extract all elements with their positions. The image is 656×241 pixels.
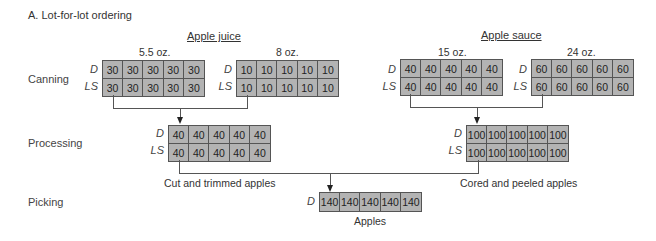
cell-d: 30 — [184, 61, 204, 78]
cell-ls: 40 — [209, 144, 229, 161]
cell-d: 10 — [277, 61, 297, 78]
cell-d: 40 — [230, 126, 250, 143]
cell-d: 140 — [360, 193, 380, 211]
cell-d: 100 — [507, 126, 527, 143]
row-label-ls: LS — [440, 144, 462, 156]
size-label-5-5oz: 5.5 oz. — [139, 46, 171, 58]
cell-d: 40 — [441, 60, 461, 77]
cell-ls: 100 — [487, 144, 507, 161]
cell-d: 30 — [123, 61, 143, 78]
cell-ls: 10 — [257, 79, 277, 96]
cell-d: 10 — [318, 61, 338, 78]
cell-d: 40 — [401, 60, 421, 77]
cell-ls: 40 — [441, 78, 461, 95]
row-label-ls: LS — [210, 80, 232, 92]
size-label-24oz: 24 oz. — [567, 46, 596, 58]
cell-ls: 100 — [548, 144, 568, 161]
diagram-title: A. Lot-for-lot ordering — [28, 9, 132, 21]
cell-ls: 40 — [189, 144, 209, 161]
group-label-apple-juice: Apple juice — [187, 30, 241, 42]
cell-d: 60 — [532, 60, 552, 77]
cell-ls: 60 — [572, 78, 592, 95]
mrp-grid-apples: 140 140 140 140 140 — [319, 192, 422, 212]
cell-d: 40 — [169, 126, 189, 143]
cell-ls: 100 — [467, 144, 487, 161]
cell-d: 60 — [572, 60, 592, 77]
cell-d: 40 — [462, 60, 482, 77]
row-label-d: D — [210, 63, 232, 75]
cell-d: 10 — [257, 61, 277, 78]
connector-line — [113, 95, 114, 108]
cell-d: 40 — [421, 60, 441, 77]
cell-ls: 40 — [462, 78, 482, 95]
cell-d: 60 — [552, 60, 572, 77]
caption-apples: Apples — [354, 215, 386, 227]
stage-label-picking: Picking — [28, 196, 63, 208]
group-label-apple-sauce: Apple sauce — [481, 29, 542, 41]
cell-d: 100 — [548, 126, 568, 143]
size-label-8oz: 8 oz. — [276, 46, 299, 58]
mrp-grid-cut-trimmed: 40 40 40 40 40 40 40 40 40 40 — [168, 125, 271, 162]
caption-cut-trimmed: Cut and trimmed apples — [164, 177, 275, 189]
cell-d: 60 — [593, 60, 613, 77]
cell-ls: 60 — [532, 78, 552, 95]
connector-line — [542, 94, 543, 107]
cell-d: 10 — [237, 61, 257, 78]
cell-d: 60 — [613, 60, 633, 77]
cell-ls: 40 — [230, 144, 250, 161]
cell-ls: 30 — [103, 79, 123, 96]
cell-ls: 30 — [123, 79, 143, 96]
arrow-down-icon — [177, 117, 183, 124]
cell-d: 40 — [250, 126, 270, 143]
cell-ls: 60 — [593, 78, 613, 95]
connector-line — [179, 173, 479, 174]
row-label-ls: LS — [76, 80, 98, 92]
cell-d: 100 — [528, 126, 548, 143]
mrp-grid-sauce-15oz: 40 40 40 40 40 40 40 40 40 40 — [400, 59, 503, 96]
row-label-d: D — [374, 63, 396, 75]
cell-d: 40 — [482, 60, 502, 77]
caption-cored-peeled: Cored and peeled apples — [460, 177, 577, 189]
row-label-ls: LS — [374, 80, 396, 92]
row-label-d: D — [142, 127, 164, 139]
cell-ls: 10 — [277, 79, 297, 96]
row-label-ls: LS — [142, 144, 164, 156]
cell-ls: 30 — [143, 79, 163, 96]
cell-ls: 10 — [318, 79, 338, 96]
cell-d: 140 — [401, 193, 421, 211]
mrp-grid-sauce-24oz: 60 60 60 60 60 60 60 60 60 60 — [531, 59, 634, 96]
cell-ls: 40 — [421, 78, 441, 95]
row-label-d: D — [76, 63, 98, 75]
cell-ls: 100 — [507, 144, 527, 161]
connector-line — [247, 95, 248, 108]
cell-d: 30 — [103, 61, 123, 78]
cell-d: 140 — [340, 193, 360, 211]
cell-ls: 40 — [482, 78, 502, 95]
cell-d: 10 — [298, 61, 318, 78]
cell-ls: 30 — [164, 79, 184, 96]
connector-line — [410, 94, 411, 107]
cell-d: 40 — [209, 126, 229, 143]
mrp-grid-juice-5-5oz: 30 30 30 30 30 30 30 30 30 30 — [102, 60, 205, 97]
stage-label-processing: Processing — [28, 137, 82, 149]
row-label-d: D — [505, 63, 527, 75]
cell-ls: 30 — [184, 79, 204, 96]
arrow-down-icon — [327, 185, 333, 192]
cell-ls: 60 — [613, 78, 633, 95]
connector-line — [478, 160, 479, 174]
row-label-d: D — [293, 195, 315, 207]
cell-ls: 100 — [528, 144, 548, 161]
cell-ls: 40 — [401, 78, 421, 95]
cell-d: 100 — [467, 126, 487, 143]
cell-ls: 40 — [169, 144, 189, 161]
size-label-15oz: 15 oz. — [438, 46, 467, 58]
cell-ls: 10 — [237, 79, 257, 96]
cell-d: 40 — [189, 126, 209, 143]
stage-label-canning: Canning — [28, 73, 69, 85]
row-label-d: D — [440, 127, 462, 139]
cell-d: 140 — [381, 193, 401, 211]
connector-line — [179, 160, 180, 174]
mrp-grid-juice-8oz: 10 10 10 10 10 10 10 10 10 10 — [236, 60, 339, 97]
cell-ls: 10 — [298, 79, 318, 96]
cell-ls: 60 — [552, 78, 572, 95]
